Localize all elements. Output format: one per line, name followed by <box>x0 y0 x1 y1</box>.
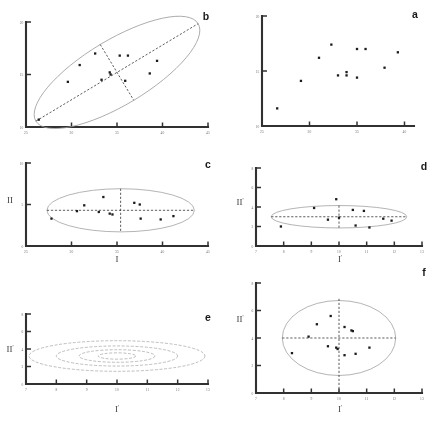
data-point <box>330 315 332 317</box>
data-point <box>102 196 104 198</box>
y-ticklabel-e: 0 <box>22 383 24 387</box>
y-ticklabel-b: 15 <box>20 73 24 77</box>
x-ticklabel-a: 35 <box>355 130 359 134</box>
data-point <box>364 48 366 50</box>
data-point <box>291 352 293 354</box>
x-ticklabel-c: 40 <box>161 250 165 254</box>
axis-frame-c <box>26 163 208 246</box>
panel-letter-e: e <box>205 311 211 323</box>
data-point <box>335 198 337 200</box>
panel-e: 7891011121302468 <box>22 313 210 392</box>
x-ticklabel-d: 8 <box>283 250 285 254</box>
data-point <box>109 73 111 75</box>
y-ticklabel-e: 6 <box>22 330 24 334</box>
y-ticklabel-f: 6 <box>252 309 254 313</box>
data-point <box>327 219 329 221</box>
y-ticklabel-a: 10 <box>256 125 260 129</box>
x-ticklabel-e: 7 <box>25 388 27 392</box>
data-point <box>124 80 126 82</box>
x-ticklabel-f: 9 <box>310 397 312 401</box>
y-ticklabel-f: 2 <box>252 364 254 368</box>
x-ticklabel-f: 13 <box>420 397 424 401</box>
minor-axis-b <box>100 44 134 100</box>
y-axis-label-d: II' <box>236 197 243 207</box>
x-ticklabel-b: 35 <box>115 131 119 135</box>
data-point <box>356 76 358 78</box>
panel-letter-d: d <box>421 160 427 172</box>
data-point <box>172 215 174 217</box>
y-ticklabel-e: 8 <box>22 313 24 317</box>
x-ticklabel-d: 11 <box>365 250 369 254</box>
contour-level-1-e <box>98 353 136 359</box>
y-ticklabel-f: 0 <box>252 392 254 396</box>
y-ticklabel-e: 2 <box>22 365 24 369</box>
x-ticklabel-a: 25 <box>260 130 264 134</box>
x-ticklabel-e: 10 <box>115 388 119 392</box>
panel-f: 7891011121302468 <box>252 282 424 401</box>
data-point <box>76 210 78 212</box>
data-point <box>382 218 384 220</box>
data-point <box>133 202 135 204</box>
data-point <box>83 204 85 206</box>
x-ticklabel-d: 13 <box>420 250 424 254</box>
x-axis-label-c: I <box>116 254 119 264</box>
x-axis-label-e: I' <box>115 404 119 414</box>
contour-level-3-e <box>56 346 177 366</box>
contour-level-2-e <box>79 350 155 363</box>
x-ticklabel-f: 8 <box>283 397 285 401</box>
data-point <box>363 210 365 212</box>
panel-letter-f: f <box>422 266 426 278</box>
data-point <box>38 119 40 121</box>
axis-frame-a <box>262 16 414 126</box>
data-point <box>160 218 162 220</box>
x-ticklabel-b: 30 <box>70 131 74 135</box>
contour-level-4-e <box>29 341 205 372</box>
data-point <box>345 71 347 73</box>
data-point <box>300 80 302 82</box>
panel-c: 25303540450510 <box>20 162 210 254</box>
y-ticklabel-a: 20 <box>256 15 260 19</box>
x-ticklabel-b: 40 <box>161 131 165 135</box>
y-ticklabel-c: 0 <box>22 245 24 249</box>
x-ticklabel-e: 12 <box>176 388 180 392</box>
data-point <box>100 79 102 81</box>
x-ticklabel-a: 40 <box>403 130 407 134</box>
data-point <box>276 107 278 109</box>
data-point <box>327 345 329 347</box>
data-point <box>343 326 345 328</box>
y-axis-label-e: II' <box>6 344 13 354</box>
x-ticklabel-e: 13 <box>206 388 210 392</box>
data-point <box>109 212 111 214</box>
y-ticklabel-d: 0 <box>252 245 254 249</box>
data-point <box>149 72 151 74</box>
y-axis-label-f: II' <box>236 314 243 324</box>
data-point <box>313 207 315 209</box>
data-point <box>280 225 282 227</box>
figure-canvas: 25303540101520a2530354045101520b25303540… <box>0 0 446 422</box>
x-ticklabel-f: 11 <box>365 397 369 401</box>
data-point <box>119 54 121 56</box>
y-ticklabel-b: 10 <box>20 126 24 130</box>
data-point <box>307 335 309 337</box>
x-ticklabel-a: 30 <box>308 130 312 134</box>
panel-letter-c: c <box>205 158 211 170</box>
y-ticklabel-c: 5 <box>22 203 24 207</box>
data-point <box>337 74 339 76</box>
data-point <box>338 217 340 219</box>
data-point <box>354 353 356 355</box>
data-point <box>345 74 347 76</box>
y-ticklabel-d: 2 <box>252 225 254 229</box>
y-ticklabel-f: 8 <box>252 282 254 286</box>
y-ticklabel-a: 15 <box>256 70 260 74</box>
y-axis-label-c: II <box>7 195 13 205</box>
data-point <box>109 71 111 73</box>
axis-frame-b <box>26 22 208 127</box>
data-point <box>67 81 69 83</box>
axis-frame-e <box>26 314 208 384</box>
data-point <box>139 203 141 205</box>
x-ticklabel-b: 45 <box>206 131 210 135</box>
x-axis-label-d: I' <box>338 254 342 264</box>
x-ticklabel-f: 12 <box>392 397 396 401</box>
data-point <box>50 217 52 219</box>
figure-panel-grid: 25303540101520a2530354045101520b25303540… <box>0 0 446 422</box>
